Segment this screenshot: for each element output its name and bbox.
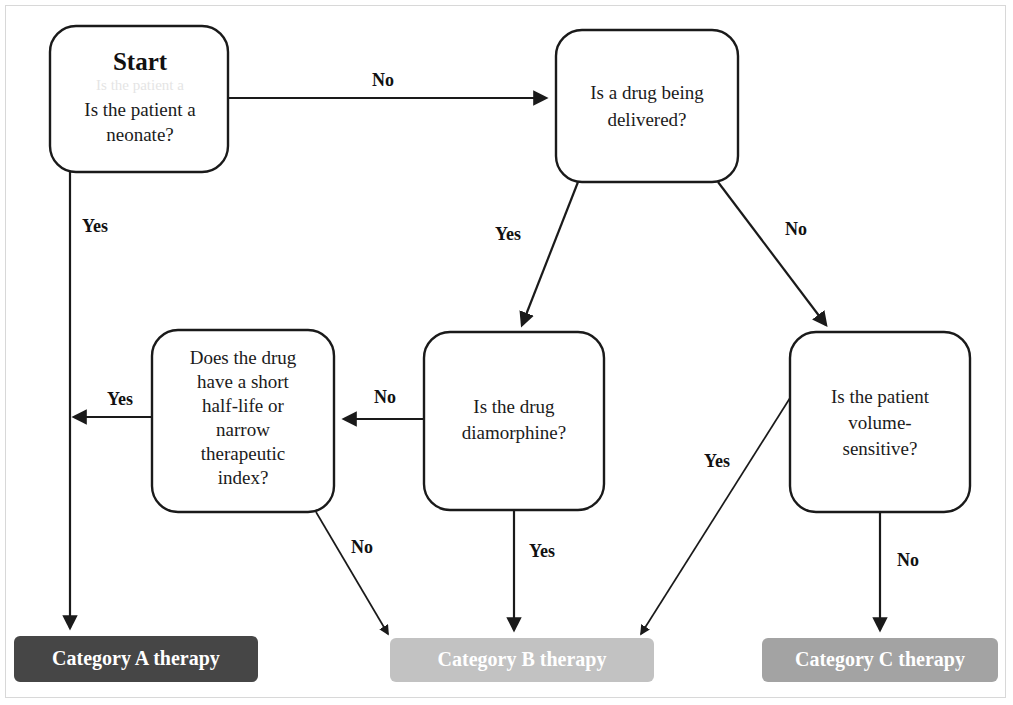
node-drug-delivered-line-2: delivered? (607, 109, 686, 130)
node-drug-delivered[interactable]: Is a drug being delivered? (556, 30, 738, 182)
edge-halflife-to-cat-a: Yes (74, 389, 152, 417)
edge-diamorphine-to-halflife: No (344, 387, 424, 419)
terminal-category-c[interactable]: Category C therapy (762, 638, 998, 682)
node-volume-line-2: volume- (848, 412, 911, 433)
node-volume-line-3: sensitive? (843, 438, 918, 459)
edge-label-drug-yes: Yes (495, 224, 521, 244)
edge-volume-to-cat-b: Yes (641, 398, 790, 634)
node-diamorphine-shape[interactable] (424, 332, 604, 510)
edge-label-halflife-no: No (351, 537, 373, 557)
node-diamorphine-line-1: Is the drug (473, 396, 555, 417)
node-diamorphine-line-2: diamorphine? (462, 422, 566, 443)
edge-label-start-no: No (372, 70, 394, 90)
node-start-title: Start (113, 48, 168, 75)
node-start-line-1: Is the patient a (84, 99, 196, 120)
node-halflife-line-1: Does the drug (190, 347, 297, 368)
node-halflife-line-4: narrow (216, 419, 270, 440)
node-diamorphine[interactable]: Is the drug diamorphine? (424, 332, 604, 510)
edge-label-diamorphine-yes: Yes (529, 541, 555, 561)
node-drug-delivered-shape[interactable] (556, 30, 738, 182)
edge-start-to-cat-a: Yes (70, 172, 108, 628)
node-start[interactable]: Start Is the patient a Is the patient a … (50, 26, 228, 172)
edge-label-drug-no: No (785, 219, 807, 239)
terminal-category-b-label: Category B therapy (438, 648, 607, 671)
node-halflife-line-5: therapeutic (201, 443, 285, 464)
terminal-category-a[interactable]: Category A therapy (14, 636, 258, 682)
edge-label-volume-no: No (897, 550, 919, 570)
edge-halflife-to-cat-b: No (316, 512, 388, 634)
node-halflife-line-3: half-life or (202, 395, 284, 416)
node-volume-line-1: Is the patient (831, 386, 930, 407)
flowchart-canvas: No Yes Yes No No Yes No (0, 0, 1013, 705)
node-start-line-2: neonate? (106, 124, 174, 145)
terminal-category-c-label: Category C therapy (795, 648, 965, 671)
node-volume-sensitive[interactable]: Is the patient volume- sensitive? (790, 332, 970, 512)
terminal-category-a-label: Category A therapy (52, 647, 220, 670)
edge-label-diamorphine-no: No (374, 387, 396, 407)
node-halflife-line-2: have a short (197, 371, 290, 392)
edge-label-halflife-yes: Yes (107, 389, 133, 409)
edge-diamorphine-to-cat-b: Yes (514, 510, 555, 630)
edge-start-to-drug: No (228, 70, 546, 98)
edge-label-start-yes: Yes (82, 216, 108, 236)
node-halflife[interactable]: Does the drug have a short half-life or … (152, 330, 334, 512)
edge-label-volume-yes: Yes (704, 451, 730, 471)
edge-drug-to-volume: No (718, 182, 826, 325)
node-drug-delivered-line-1: Is a drug being (590, 82, 704, 103)
node-halflife-line-6: index? (218, 467, 269, 488)
flowchart-page: No Yes Yes No No Yes No (0, 0, 1013, 705)
edge-volume-to-cat-c: No (880, 512, 919, 630)
terminal-category-b[interactable]: Category B therapy (390, 638, 654, 682)
node-start-ghost-artifact: Is the patient a (96, 77, 184, 93)
edge-drug-to-diamorphine: Yes (495, 182, 578, 325)
